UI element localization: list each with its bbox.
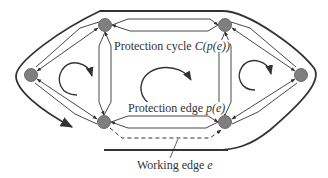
node-bottom-left xyxy=(98,116,111,129)
node-left xyxy=(25,69,38,82)
node-right xyxy=(295,69,308,82)
top-edge-return xyxy=(112,25,218,31)
edge-right-bottomright-outer xyxy=(232,83,297,124)
node-top-right xyxy=(219,19,232,32)
rotation-arrow-right xyxy=(239,61,271,90)
protection-edge-label-text: Protection edge xyxy=(128,101,206,115)
outer-boundary-path xyxy=(16,11,316,150)
edge-topright-right-outer xyxy=(231,22,296,67)
edge-right-bottomright xyxy=(232,79,295,119)
left-vertical-edge xyxy=(99,32,105,115)
left-vertical-edge-return xyxy=(104,32,111,115)
protection-edge-label: Protection edge p(e) xyxy=(128,102,225,114)
working-edge-math: e xyxy=(207,158,212,172)
top-edge xyxy=(112,19,218,25)
edge-left-bottomleft-outer xyxy=(35,83,97,124)
protection-edge-math: p(e) xyxy=(206,101,225,115)
protection-edge-return xyxy=(111,122,218,128)
protection-edge xyxy=(111,116,218,122)
node-top-left xyxy=(99,19,112,32)
working-edge-leader xyxy=(170,139,178,158)
protection-cycle-label-text: Protection cycle xyxy=(114,39,195,53)
working-edge-label-text: Working edge xyxy=(137,158,207,172)
protection-cycle-label: Protection cycle C(p(e)) xyxy=(114,40,230,52)
working-edge-dashed xyxy=(110,128,221,138)
rotation-arrow-left xyxy=(59,63,92,95)
protection-cycle-diagram xyxy=(0,0,328,178)
node-bottom-right xyxy=(219,116,232,129)
edge-left-bottomleft xyxy=(37,79,97,119)
working-edge-label: Working edge e xyxy=(137,159,213,171)
edge-topright-right xyxy=(232,28,295,71)
protection-cycle-math: C(p(e)) xyxy=(195,39,230,53)
